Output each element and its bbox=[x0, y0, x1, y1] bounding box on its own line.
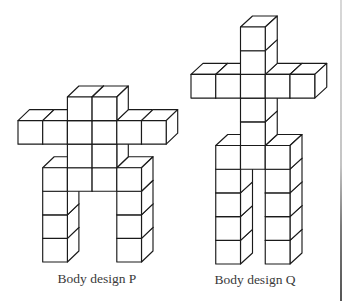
caption-body-design-p: Body design P bbox=[27, 271, 167, 287]
cube bbox=[142, 110, 178, 145]
cube-figure-q bbox=[191, 16, 327, 264]
page-edge-divider bbox=[340, 0, 342, 301]
cube bbox=[241, 16, 278, 51]
figure-canvas bbox=[0, 0, 342, 301]
cube bbox=[92, 86, 128, 121]
cube bbox=[290, 63, 327, 98]
cube-figure-p bbox=[18, 86, 178, 262]
caption-body-design-q: Body design Q bbox=[185, 272, 325, 288]
